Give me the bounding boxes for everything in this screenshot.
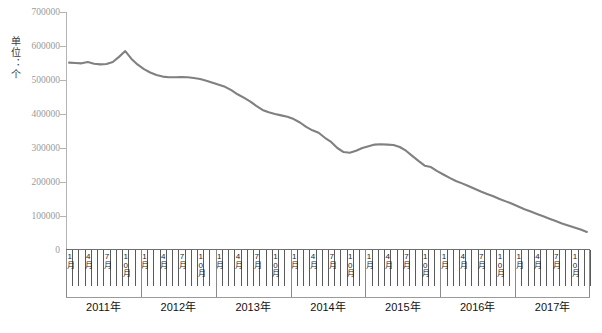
year-separator — [66, 250, 67, 298]
y-tick-mark — [60, 80, 66, 81]
year-separator — [141, 250, 142, 298]
y-tick-label: 600000 — [32, 41, 61, 51]
year-separator — [589, 250, 590, 298]
x-year-label: 2011年 — [86, 298, 121, 314]
y-tick-mark — [60, 114, 66, 115]
x-year-label: 2012年 — [161, 298, 196, 314]
x-axis-year-labels: 2011年2012年2013年2014年2015年2016年2017年 — [66, 298, 590, 318]
year-separator — [291, 250, 292, 298]
x-year-label: 2017年 — [535, 298, 570, 314]
y-axis-tick-labels: 0100000200000300000400000500000600000700… — [0, 0, 60, 333]
series-polyline — [69, 51, 587, 232]
y-tick-label: 700000 — [32, 7, 61, 17]
y-tick-mark — [60, 182, 66, 183]
year-separator — [515, 250, 516, 298]
y-tick-label: 100000 — [32, 211, 61, 221]
y-tick-mark — [60, 12, 66, 13]
y-tick-mark — [60, 46, 66, 47]
year-separator — [440, 250, 441, 298]
x-year-label: 2013年 — [235, 298, 270, 314]
x-tick-mark — [590, 250, 591, 286]
year-separator — [365, 250, 366, 298]
x-axis-year-separators — [66, 250, 590, 298]
y-tick-mark — [60, 148, 66, 149]
x-year-label: 2016年 — [460, 298, 495, 314]
plot-area — [66, 12, 590, 250]
x-year-label: 2014年 — [310, 298, 345, 314]
x-year-label: 2015年 — [385, 298, 420, 314]
y-tick-mark — [60, 216, 66, 217]
y-tick-label: 500000 — [32, 75, 61, 85]
chart-figure: 单位：个 01000002000003000004000005000006000… — [0, 0, 602, 333]
y-tick-label: 400000 — [32, 109, 61, 119]
y-tick-label: 300000 — [32, 143, 61, 153]
y-tick-label: 200000 — [32, 177, 61, 187]
year-separator — [216, 250, 217, 298]
y-tick-label: 0 — [55, 245, 60, 255]
line-series — [66, 12, 590, 250]
